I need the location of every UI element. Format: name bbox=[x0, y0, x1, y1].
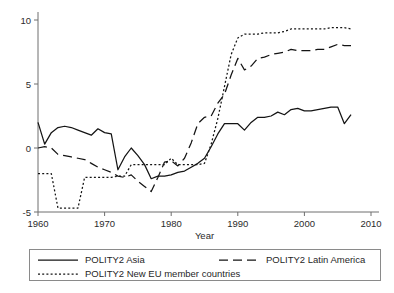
series-line-0 bbox=[38, 107, 351, 179]
legend-label: POLITY2 Latin America bbox=[266, 254, 365, 265]
y-tick-label: 5 bbox=[26, 79, 31, 90]
y-tick-label: -5 bbox=[23, 207, 31, 218]
x-axis-title: Year bbox=[195, 230, 214, 241]
x-tick-label: 1980 bbox=[161, 218, 182, 229]
legend-line-sample-dashed bbox=[218, 255, 260, 265]
series-line-1 bbox=[38, 44, 351, 191]
legend-line-sample-dotted bbox=[37, 269, 79, 279]
x-tick-label: 1960 bbox=[27, 218, 48, 229]
series-group bbox=[38, 28, 351, 208]
series-line-2 bbox=[38, 28, 351, 208]
legend-label: POLITY2 Asia bbox=[85, 254, 145, 265]
legend-entry: POLITY2 New EU member countries bbox=[37, 267, 240, 280]
x-tick-label: 2000 bbox=[294, 218, 315, 229]
legend: POLITY2 AsiaPOLITY2 Latin AmericaPOLITY2… bbox=[29, 249, 381, 281]
y-tick-label: 10 bbox=[20, 15, 31, 26]
legend-entry: POLITY2 Latin America bbox=[218, 253, 365, 266]
y-tick-label: 0 bbox=[26, 143, 31, 154]
axis-label-group: -50510196019701980199020002010Year bbox=[20, 15, 381, 242]
legend-label: POLITY2 New EU member countries bbox=[85, 268, 240, 279]
axis-group bbox=[34, 12, 379, 216]
x-tick-label: 1990 bbox=[227, 218, 248, 229]
x-tick-label: 2010 bbox=[360, 218, 381, 229]
legend-line-sample-solid bbox=[37, 255, 79, 265]
chart-figure: -50510196019701980199020002010Year POLIT… bbox=[0, 0, 394, 293]
x-tick-label: 1970 bbox=[94, 218, 115, 229]
legend-entry: POLITY2 Asia bbox=[37, 253, 145, 266]
